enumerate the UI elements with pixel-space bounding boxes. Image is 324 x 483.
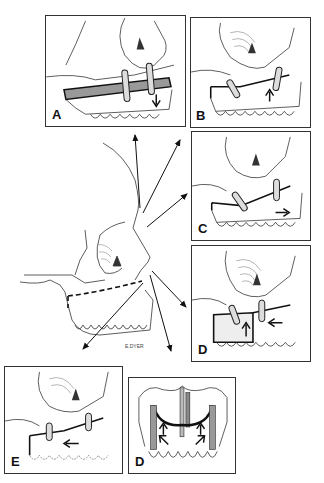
direction-arrows (83, 135, 187, 351)
central-skull (20, 143, 153, 335)
osteotomy-line (68, 281, 142, 308)
artist-signature: E.DYER (125, 343, 144, 349)
arrow-to-d-frontal (150, 275, 171, 351)
arrow-to-b (143, 140, 180, 213)
arrow-to-c (147, 194, 187, 227)
arrow-to-a (135, 135, 140, 208)
central-skull-and-arrows: E.DYER (0, 0, 324, 483)
